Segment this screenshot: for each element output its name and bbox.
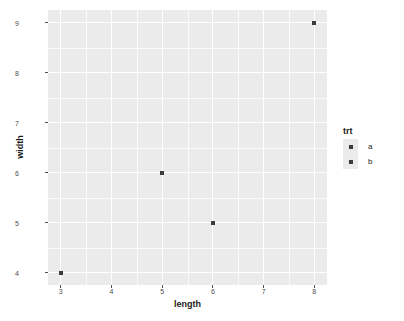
gridline-major-horizontal [48, 172, 327, 173]
data-point[interactable] [59, 271, 63, 275]
gridline-major-vertical [111, 10, 112, 285]
legend-key-swatch [343, 154, 358, 169]
y-tick-mark [45, 22, 48, 23]
y-axis-title: width [15, 135, 25, 159]
legend: trt ab [339, 126, 399, 169]
gridline-major-horizontal [48, 272, 327, 273]
scatter-plot-figure: 345678456789 length width trt ab [0, 0, 404, 321]
gridline-major-horizontal [48, 122, 327, 123]
legend-key-point-icon [349, 145, 353, 149]
gridline-major-horizontal [48, 222, 327, 223]
gridline-major-vertical [60, 10, 61, 285]
y-tick-mark [45, 222, 48, 223]
y-tick-label: 5 [15, 219, 19, 226]
data-point[interactable] [312, 21, 316, 25]
y-tick-label: 6 [15, 169, 19, 176]
y-tick-mark [45, 172, 48, 173]
gridline-major-vertical [212, 10, 213, 285]
x-axis-title: length [48, 299, 327, 309]
y-tick-label: 7 [15, 119, 19, 126]
gridline-minor-horizontal [48, 148, 327, 149]
legend-entry-b[interactable]: b [339, 154, 399, 169]
y-tick-mark [45, 272, 48, 273]
plot-panel [48, 10, 327, 285]
data-point[interactable] [211, 221, 215, 225]
legend-title: trt [339, 126, 399, 136]
gridline-minor-horizontal [48, 48, 327, 49]
gridline-minor-horizontal [48, 248, 327, 249]
y-tick-label: 8 [15, 69, 19, 76]
gridline-minor-horizontal [48, 198, 327, 199]
legend-key-swatch [343, 139, 358, 154]
y-tick-mark [45, 122, 48, 123]
x-tick-label: 6 [211, 288, 215, 295]
data-point[interactable] [160, 171, 164, 175]
x-tick-label: 7 [262, 288, 266, 295]
legend-label: a [368, 142, 372, 151]
gridline-major-horizontal [48, 72, 327, 73]
y-tick-label: 4 [15, 269, 19, 276]
y-tick-label: 9 [15, 19, 19, 26]
gridline-major-vertical [314, 10, 315, 285]
legend-entries: ab [339, 139, 399, 169]
x-tick-label: 8 [312, 288, 316, 295]
x-tick-label: 3 [59, 288, 63, 295]
legend-label: b [368, 157, 372, 166]
legend-entry-a[interactable]: a [339, 139, 399, 154]
legend-key-point-icon [349, 160, 353, 164]
gridline-major-vertical [162, 10, 163, 285]
x-tick-label: 4 [109, 288, 113, 295]
x-tick-label: 5 [160, 288, 164, 295]
gridline-major-horizontal [48, 22, 327, 23]
gridline-major-vertical [263, 10, 264, 285]
gridline-minor-horizontal [48, 98, 327, 99]
y-tick-mark [45, 72, 48, 73]
